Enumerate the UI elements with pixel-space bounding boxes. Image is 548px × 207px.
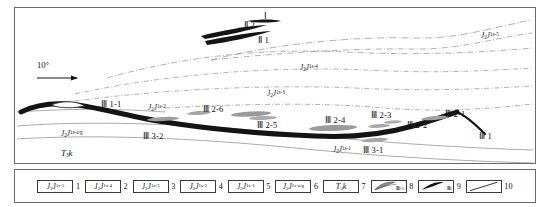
legend-num-5: 5 bbox=[266, 182, 270, 191]
label-ore-III2-6: Ⅲ 2-6 bbox=[203, 105, 224, 114]
label-ore-III2-1: Ⅲ 2-1 bbox=[445, 110, 466, 119]
legend-num-4: 4 bbox=[219, 182, 223, 191]
legend-item-9[interactable]: Ⅲ1 9 bbox=[418, 180, 461, 193]
label-ore-I: Ⅰ bbox=[264, 12, 267, 21]
legend-swatch-9-annot: Ⅲ1 bbox=[447, 186, 452, 191]
cross-section-panel: J2J1s-5 J2J1s-4 J2J1s-3 J2J1s-2 J2J1s-1 … bbox=[14, 7, 536, 164]
label-strat-js2: J2J1s-2 bbox=[148, 104, 166, 112]
legend-item-5[interactable]: J2J1s-1 5 bbox=[228, 180, 271, 193]
legend-swatch-js1: J2J1s-1 bbox=[228, 180, 264, 193]
legend-swatch-js5: J2J1s-5 bbox=[37, 180, 73, 193]
legend-row: J2J1s-5 1 J2J1s-4 2 J2J1s-3 3 bbox=[15, 170, 535, 202]
label-ore-III1-1: Ⅲ 1-1 bbox=[101, 100, 122, 109]
legend-item-10[interactable]: 10 bbox=[466, 180, 513, 193]
legend-item-8[interactable]: Ⅲ2-5 8 bbox=[371, 180, 414, 193]
legend-num-9: 9 bbox=[457, 182, 461, 191]
horizon-js3-base bbox=[55, 86, 533, 104]
diagonal-line-icon bbox=[467, 180, 501, 193]
horizon-jsag-base bbox=[17, 137, 533, 163]
label-strat-js3: J2J1s-3 bbox=[267, 90, 285, 98]
legend-item-7[interactable]: T3k 7 bbox=[323, 180, 366, 193]
legend-num-3: 3 bbox=[171, 182, 175, 191]
legend-swatch-t3k: T3k bbox=[323, 180, 359, 193]
horizon-js4-top bbox=[107, 48, 533, 78]
ore-lens-III2-3b bbox=[384, 120, 402, 124]
legend-num-2: 2 bbox=[124, 182, 128, 191]
label-strat-js4: J2J1s-4 bbox=[300, 64, 318, 72]
label-ore-III3-1: Ⅲ 3-1 bbox=[363, 146, 384, 155]
legend-num-7: 7 bbox=[362, 182, 366, 191]
legend-swatch-jsag: J2J1s-a/g bbox=[275, 180, 311, 193]
cross-section-drawing bbox=[15, 8, 535, 163]
label-strat-t3k: T3k bbox=[61, 149, 73, 158]
label-strat-js5: J2J1s-5 bbox=[481, 32, 499, 40]
label-dip-angle: 10° bbox=[37, 61, 49, 70]
label-ore-II2: Ⅱ 2 bbox=[244, 21, 255, 30]
legend-swatch-boundary-line bbox=[466, 180, 502, 193]
legend-item-2[interactable]: J2J1s-4 2 bbox=[85, 180, 128, 193]
label-ore-III1: Ⅲ 1 bbox=[479, 132, 492, 141]
legend-swatch-js3: J2J1s-3 bbox=[133, 180, 169, 193]
legend-swatch-8-annot: Ⅲ2-5 bbox=[396, 186, 404, 191]
label-ore-III2-4: Ⅲ 2-4 bbox=[325, 116, 346, 125]
legend-item-1[interactable]: J2J1s-5 1 bbox=[37, 180, 80, 193]
figure-root: J2J1s-5 J2J1s-4 J2J1s-3 J2J1s-2 J2J1s-1 … bbox=[0, 0, 548, 207]
legend-num-8: 8 bbox=[409, 182, 413, 191]
dip-arrow bbox=[37, 75, 78, 80]
ore-lens-III2-4 bbox=[309, 124, 357, 132]
label-ore-III2-2: Ⅲ 2-2 bbox=[407, 121, 428, 130]
legend-swatch-js2: J2J1s-2 bbox=[180, 180, 216, 193]
label-strat-js1: J2J1s-1 bbox=[333, 146, 351, 154]
legend-num-6: 6 bbox=[314, 182, 318, 191]
legend-item-3[interactable]: J2J1s-3 3 bbox=[133, 180, 176, 193]
legend-swatch-lens-gray: Ⅲ2-5 bbox=[371, 180, 407, 193]
ore-lens-III2-3a bbox=[368, 124, 390, 129]
label-ore-III2-3: Ⅲ 2-3 bbox=[371, 111, 392, 120]
ore-seam-main bbox=[21, 104, 457, 137]
legend-swatch-js4: J2J1s-4 bbox=[85, 180, 121, 193]
label-ore-II1: Ⅱ 1 bbox=[258, 36, 269, 45]
legend-swatch-lens-black: Ⅲ1 bbox=[418, 180, 454, 193]
label-ore-III2-5: Ⅲ 2-5 bbox=[257, 121, 278, 130]
legend-num-10: 10 bbox=[504, 182, 512, 191]
label-ore-III3-2: Ⅲ 3-2 bbox=[143, 132, 164, 141]
legend-panel: J2J1s-5 1 J2J1s-4 2 J2J1s-3 3 bbox=[14, 169, 536, 203]
legend-item-4[interactable]: J2J1s-2 4 bbox=[180, 180, 223, 193]
label-strat-jsag: J2J1s-a/g bbox=[61, 130, 83, 138]
legend-num-1: 1 bbox=[76, 182, 80, 191]
legend-item-6[interactable]: J2J1s-a/g 6 bbox=[275, 180, 318, 193]
